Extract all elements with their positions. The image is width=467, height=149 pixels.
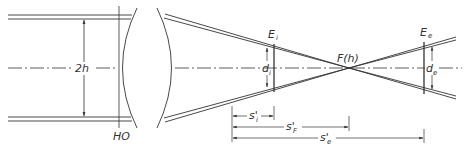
plane-e-e-label: E [420, 26, 427, 39]
plane-e-i-subscript: i [276, 34, 278, 42]
diagram-canvas: 2h HO F(h) E i [0, 0, 467, 149]
lens [123, 8, 172, 128]
diameter-e-subscript: e [433, 69, 437, 77]
principal-plane-label: HO [113, 130, 130, 143]
beam-height-dimension: 2h [73, 20, 95, 116]
diameter-i-subscript: i [269, 69, 271, 77]
principal-plane: HO [113, 6, 130, 143]
beam-height-label: 2h [75, 62, 89, 75]
plane-e-i: E i d i [262, 28, 278, 92]
plane-e-e: E e d e [420, 26, 439, 94]
distance-i-subscript: i [256, 116, 258, 124]
distance-e-subscript: e [327, 138, 331, 146]
plane-e-i-label: E [268, 28, 275, 41]
distance-f-subscript: F [293, 127, 298, 135]
plane-e-e-subscript: e [428, 32, 432, 40]
optical-diagram: 2h HO F(h) E i [0, 0, 467, 149]
distance-dimensions: s' i s' F s' e [232, 106, 424, 146]
focus-label: F(h) [337, 52, 359, 65]
